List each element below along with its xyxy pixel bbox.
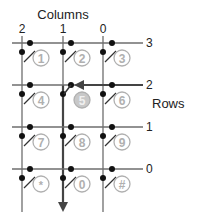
key-switch-2: 2: [60, 40, 90, 66]
rows-title: Rows: [152, 96, 185, 111]
key-label: #: [119, 178, 126, 192]
key-label: 2: [79, 52, 86, 66]
key-switch-7: 7: [19, 124, 49, 150]
key-label: 0: [79, 178, 86, 192]
key-switch-1: 1: [19, 40, 49, 66]
key-switch-8: 8: [60, 124, 90, 150]
arrow-down-icon: [58, 202, 68, 212]
key-label: 5: [79, 94, 86, 108]
key-switch-0: 0: [60, 166, 90, 192]
arrow-left-icon: [74, 80, 84, 90]
key-switch-hash: #: [100, 166, 130, 192]
key-switch-9: 9: [100, 124, 130, 150]
key-label: 1: [38, 52, 45, 66]
key-label: 3: [119, 52, 126, 66]
column-label: 0: [100, 22, 107, 36]
key-label: 6: [119, 94, 126, 108]
key-switch-star: *: [19, 166, 49, 192]
row-label: 2: [146, 78, 153, 92]
columns-title: Columns: [37, 7, 89, 22]
row-label: 1: [146, 120, 153, 134]
key-label: 8: [79, 136, 86, 150]
row-label: 0: [146, 162, 153, 176]
key-switch-4: 4: [19, 82, 49, 108]
column-label: 1: [60, 22, 67, 36]
row-label: 3: [146, 36, 153, 50]
keypad-matrix-diagram: Columns 2 1 0 3 2 1 0 Rows 1 2 3: [0, 0, 197, 220]
key-label: 9: [119, 136, 126, 150]
key-label: 4: [38, 94, 45, 108]
column-label: 2: [19, 22, 26, 36]
key-switch-3: 3: [100, 40, 130, 66]
key-label: 7: [38, 136, 45, 150]
key-label: *: [39, 179, 44, 191]
